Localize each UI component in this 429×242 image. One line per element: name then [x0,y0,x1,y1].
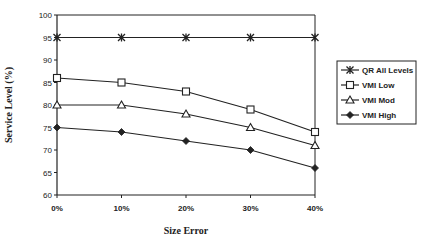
data-point-square [54,75,61,82]
y-tick-label: 65 [43,169,52,178]
y-tick-label: 70 [43,146,52,155]
data-point-diamond [247,147,254,154]
data-point-square [247,106,254,113]
series-group [53,34,319,172]
legend-item: VMI Low [341,81,395,90]
data-point-square [183,88,190,95]
y-tick-label: 95 [43,34,52,43]
x-tick-label: 40% [307,204,323,213]
x-axis-title: Size Error [164,225,209,236]
data-point-diamond [183,138,190,145]
y-tick-label: 100 [39,11,53,20]
x-tick-label: 10% [113,204,129,213]
legend-label: VMI Low [362,81,395,90]
series-line [57,128,315,169]
x-tick-label: 20% [178,204,194,213]
x-tick-label: 0% [51,204,63,213]
x-axis-ticks: 0%10%20%30%40% [51,195,323,213]
series-vmi-high [54,124,319,172]
y-tick-label: 90 [43,56,52,65]
y-tick-label: 80 [43,101,52,110]
legend-label: VMI High [362,111,396,120]
legend-label: VMI Mod [362,96,395,105]
y-tick-label: 75 [43,124,52,133]
data-point-square [312,129,319,136]
data-point-diamond [54,124,61,131]
data-point-square [118,79,125,86]
data-point-diamond [118,129,125,136]
legend-marker-square [347,82,354,89]
line-chart: 6065707580859095100 0%10%20%30%40% Size … [0,0,429,242]
data-point-diamond [312,165,319,172]
legend: QR All LevelsVMI LowVMI ModVMI High [337,61,416,124]
series-qr-all-levels [54,34,319,42]
y-tick-label: 85 [43,79,52,88]
y-tick-label: 60 [43,191,52,200]
legend-label: QR All Levels [362,66,414,75]
y-axis-title: Service Level (%) [3,67,15,143]
x-tick-label: 30% [242,204,258,213]
